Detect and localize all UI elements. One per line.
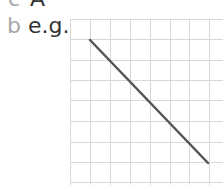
grid-diagram [0, 0, 223, 185]
diagonal-line [90, 40, 208, 163]
